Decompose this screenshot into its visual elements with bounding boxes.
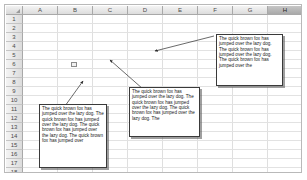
column-header-b[interactable]: B [58,6,93,15]
corner-triangle-icon [16,9,20,13]
row-header-14[interactable]: 14 [6,132,23,141]
row-header-13[interactable]: 13 [6,123,23,132]
row-header-18[interactable]: 18 [6,168,23,173]
row-header-10[interactable]: 10 [6,96,23,105]
row-header-4[interactable]: 4 [6,42,23,51]
column-header-a[interactable]: A [23,6,58,15]
column-header-row: ABCDEFGHI [23,6,301,15]
row-header-7[interactable]: 7 [6,69,23,78]
row-header-17[interactable]: 17 [6,159,23,168]
row-header-column: 123456789101112131415161718 [6,15,23,173]
textbox-middle[interactable]: The quick brown fox has jumped over the … [129,87,200,137]
column-header-f[interactable]: F [198,6,233,15]
row-header-2[interactable]: 2 [6,24,23,33]
row-header-5[interactable]: 5 [6,51,23,60]
active-cell-cursor[interactable] [71,62,77,67]
column-header-g[interactable]: G [233,6,268,15]
row-header-6[interactable]: 6 [6,60,23,69]
row-header-8[interactable]: 8 [6,78,23,87]
column-header-d[interactable]: D [128,6,163,15]
row-header-1[interactable]: 1 [6,15,23,24]
row-header-15[interactable]: 15 [6,141,23,150]
row-header-9[interactable]: 9 [6,87,23,96]
sheet-frame: ABCDEFGHI 123456789101112131415161718 Th… [4,4,302,173]
column-header-e[interactable]: E [163,6,198,15]
column-header-h[interactable]: H [268,6,302,15]
row-header-16[interactable]: 16 [6,150,23,159]
grid-line-horizontal [23,32,301,33]
row-header-12[interactable]: 12 [6,114,23,123]
select-all-corner[interactable] [6,6,23,15]
row-header-11[interactable]: 11 [6,105,23,114]
column-header-c[interactable]: C [93,6,128,15]
grid-line-horizontal [23,23,301,24]
textbox-bottom-left[interactable]: The quick brown fox has jumped over the … [39,104,107,168]
textbox-top-right[interactable]: The quick brown fox has jumped over the … [216,34,283,86]
row-header-3[interactable]: 3 [6,33,23,42]
spreadsheet-screenshot: ABCDEFGHI 123456789101112131415161718 Th… [0,0,307,180]
